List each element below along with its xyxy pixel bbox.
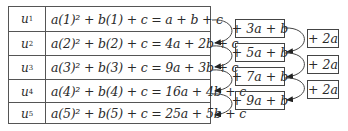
- second-difference-box: + 2a: [307, 29, 339, 48]
- first-difference-box: + 3a + b: [235, 19, 285, 38]
- first-difference-box: + 5a + b: [235, 43, 285, 62]
- first-difference-box: + 9a + b: [235, 91, 285, 110]
- first-difference-box: + 7a + b: [235, 67, 285, 86]
- difference-arrows: [0, 0, 348, 131]
- second-difference-box: + 2a: [307, 80, 339, 99]
- second-difference-box: + 2a: [307, 55, 339, 74]
